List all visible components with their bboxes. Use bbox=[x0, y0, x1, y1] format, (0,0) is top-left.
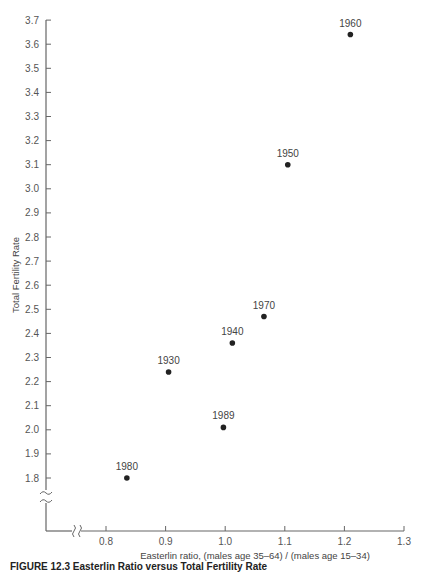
data-point: 1950 bbox=[277, 148, 300, 168]
y-axis: 1.81.92.02.12.22.32.42.52.62.72.82.93.03… bbox=[25, 15, 52, 531]
data-point: 1940 bbox=[221, 326, 244, 346]
y-tick-label: 3.3 bbox=[25, 111, 39, 122]
point-label: 1970 bbox=[253, 300, 276, 311]
figure-caption: FIGURE 12.3 Easterlin Ratio versus Total… bbox=[10, 561, 267, 572]
point-label: 1950 bbox=[277, 148, 300, 159]
point-marker bbox=[124, 475, 130, 481]
point-marker bbox=[221, 425, 227, 431]
point-label: 1930 bbox=[157, 355, 180, 366]
point-label: 1940 bbox=[221, 326, 244, 337]
y-tick-label: 2.0 bbox=[25, 424, 39, 435]
x-axis-title: Easterlin ratio, (males age 35–64) / (ma… bbox=[140, 550, 370, 561]
x-axis: 0.80.91.01.11.21.3 bbox=[46, 525, 411, 547]
y-tick-label: 3.5 bbox=[25, 63, 39, 74]
y-tick-label: 3.2 bbox=[25, 135, 39, 146]
y-axis-title: Total Fertility Rate bbox=[10, 237, 21, 313]
data-point: 1989 bbox=[212, 410, 235, 430]
data-point: 1930 bbox=[157, 355, 180, 375]
data-point: 1960 bbox=[339, 18, 362, 38]
data-points: 1930194019501960197019801989 bbox=[116, 18, 362, 481]
y-tick-label: 2.5 bbox=[25, 304, 39, 315]
point-label: 1960 bbox=[339, 18, 362, 29]
x-tick-label: 1.2 bbox=[337, 536, 351, 547]
y-tick-label: 2.1 bbox=[25, 400, 39, 411]
y-tick-label: 2.7 bbox=[25, 256, 39, 267]
y-tick-label: 2.9 bbox=[25, 207, 39, 218]
y-tick-label: 2.8 bbox=[25, 232, 39, 243]
x-tick-label: 1.0 bbox=[218, 536, 232, 547]
data-point: 1970 bbox=[253, 300, 276, 320]
y-tick-label: 2.6 bbox=[25, 280, 39, 291]
point-marker bbox=[230, 340, 236, 346]
x-tick-label: 0.8 bbox=[99, 536, 113, 547]
point-marker bbox=[166, 369, 172, 375]
y-tick-label: 3.7 bbox=[25, 15, 39, 26]
y-tick-label: 3.6 bbox=[25, 39, 39, 50]
x-tick-label: 1.1 bbox=[278, 536, 292, 547]
y-tick-label: 2.2 bbox=[25, 376, 39, 387]
data-point: 1980 bbox=[116, 461, 139, 481]
point-label: 1980 bbox=[116, 461, 139, 472]
y-tick-label: 3.0 bbox=[25, 183, 39, 194]
y-tick-label: 3.1 bbox=[25, 159, 39, 170]
y-tick-label: 1.9 bbox=[25, 448, 39, 459]
point-label: 1989 bbox=[212, 410, 235, 421]
y-tick-label: 2.3 bbox=[25, 352, 39, 363]
y-tick-label: 2.4 bbox=[25, 328, 39, 339]
point-marker bbox=[261, 314, 267, 320]
x-tick-label: 0.9 bbox=[159, 536, 173, 547]
point-marker bbox=[285, 162, 291, 168]
x-tick-label: 1.3 bbox=[397, 536, 411, 547]
y-tick-label: 3.4 bbox=[25, 87, 39, 98]
y-tick-label: 1.8 bbox=[25, 473, 39, 484]
point-marker bbox=[348, 32, 354, 38]
